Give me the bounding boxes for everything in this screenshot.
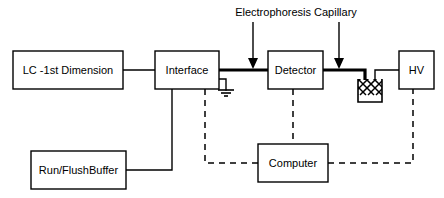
capillary-arrow-right-icon — [334, 22, 344, 69]
box-interface-label: Interface — [166, 64, 209, 76]
diagram-svg: LC -1st Dimension Interface Detector HV … — [0, 0, 444, 198]
box-hv[interactable]: HV — [399, 51, 434, 89]
box-computer-label: Computer — [269, 157, 318, 169]
line-hv-to-vial-electrode — [375, 70, 399, 80]
line-interface-to-buffer — [126, 89, 172, 170]
buffer-vial-icon — [352, 73, 390, 102]
box-hv-label: HV — [409, 64, 425, 76]
box-interface[interactable]: Interface — [155, 51, 219, 89]
dashed-interface-to-computer — [205, 89, 258, 163]
box-computer[interactable]: Computer — [258, 144, 328, 182]
box-run-flush-buffer-label: Run/FlushBuffer — [39, 164, 119, 176]
annotation-electrophoresis-capillary: Electrophoresis Capillary — [235, 6, 357, 18]
box-lc-1st-dimension[interactable]: LC -1st Dimension — [13, 51, 123, 89]
diagram-canvas: LC -1st Dimension Interface Detector HV … — [0, 0, 444, 198]
box-lc-1st-dimension-label: LC -1st Dimension — [23, 64, 113, 76]
line-interface-to-ground — [219, 79, 226, 90]
capillary-detector-to-vial — [323, 70, 365, 80]
ground-icon — [218, 90, 234, 96]
box-detector[interactable]: Detector — [268, 51, 323, 89]
capillary-arrow-left-icon — [248, 22, 258, 69]
box-detector-label: Detector — [275, 64, 317, 76]
box-run-flush-buffer[interactable]: Run/FlushBuffer — [31, 151, 126, 189]
dashed-computer-to-hv — [328, 89, 413, 163]
